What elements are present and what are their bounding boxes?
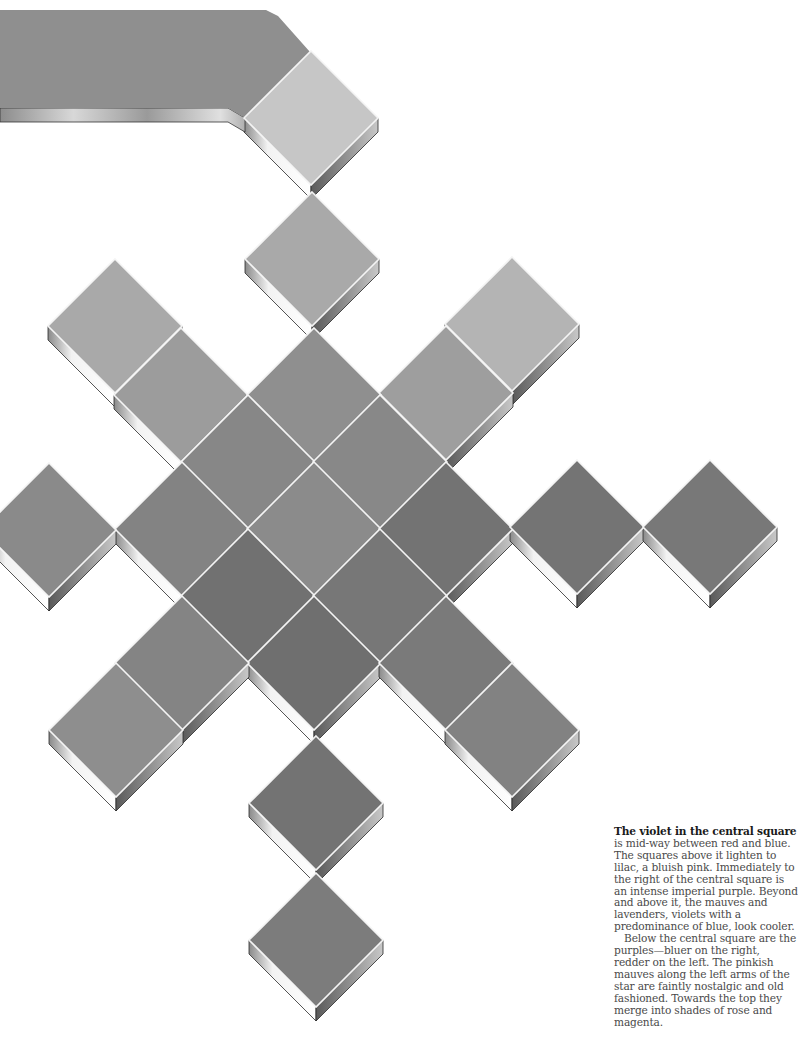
bottom-arm-inner-tile	[249, 736, 383, 870]
right-arm-outer-tile	[643, 460, 777, 594]
upper-arm-tile	[245, 192, 379, 326]
bottom-arm-outer-tile	[249, 873, 383, 1007]
right-arm-inner-tile	[510, 460, 644, 594]
caption-paragraph-2: Below the central square are the purples…	[614, 933, 798, 1028]
caption-paragraph-1: is mid-way between red and blue. The squ…	[614, 838, 798, 933]
banner-edge	[0, 108, 245, 132]
caption: The violet in the central square is mid-…	[614, 826, 798, 1028]
